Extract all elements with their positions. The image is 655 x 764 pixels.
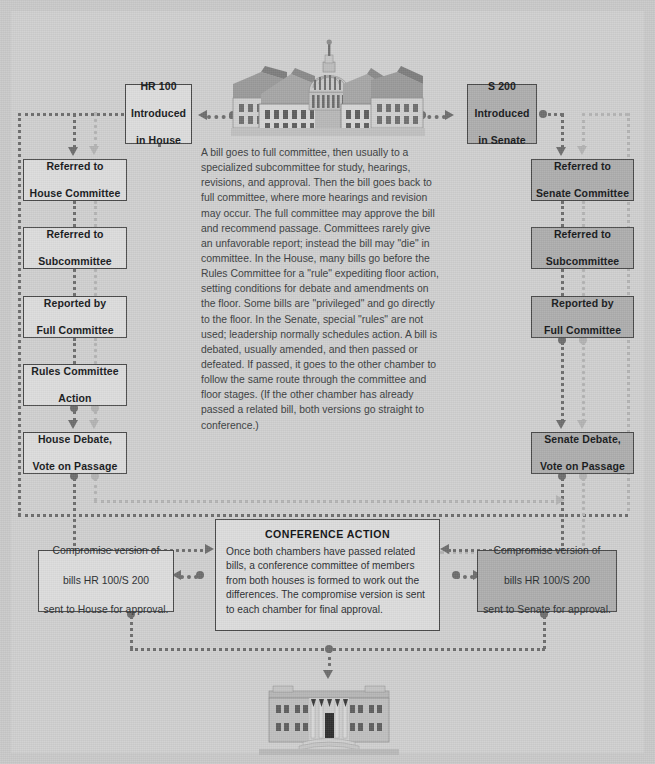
box-compromise-senate[interactable]: Compromise version of bills HR 100/S 200… bbox=[477, 550, 617, 612]
step-line2: Action bbox=[24, 392, 126, 405]
diagram-canvas: HR 100 Introduced in House S 200 Introdu… bbox=[0, 0, 655, 764]
hr100-line1: HR 100 bbox=[126, 80, 191, 93]
box-house-referred-to-subcommittee[interactable]: Referred to Subcommittee bbox=[23, 227, 127, 269]
step-line2: Subcommittee bbox=[24, 255, 126, 268]
compromise-senate-line1: Compromise version of bbox=[478, 544, 616, 559]
step-line2: Full Committee bbox=[532, 324, 633, 337]
connector-house-light-entry bbox=[94, 112, 97, 148]
connector-senate-light-entry bbox=[582, 113, 585, 148]
connector-senate-2-3-dark bbox=[561, 269, 564, 296]
arrow-light-into-senate-committee bbox=[577, 146, 587, 155]
arrow-into-house-committee bbox=[68, 147, 78, 156]
connector-senate-2-3-light bbox=[582, 269, 585, 296]
s200-line2: Introduced bbox=[468, 107, 536, 120]
connector-senate-light-top bbox=[582, 113, 628, 116]
connector-dot bbox=[325, 645, 333, 653]
step-line2: House Committee bbox=[24, 187, 126, 200]
box-referred-to-senate-committee[interactable]: Referred to Senate Committee bbox=[531, 159, 634, 201]
connector-senate-out-light bbox=[582, 478, 585, 552]
compromise-senate-line2: bills HR 100/S 200 bbox=[478, 574, 616, 589]
connector-house-out-dark-drop bbox=[73, 478, 76, 517]
compromise-house-line3: sent to House for approval. bbox=[39, 603, 173, 618]
box-senate-debate-vote-on-passage[interactable]: Senate Debate, Vote on Passage bbox=[531, 432, 634, 474]
connector-senate-3-4-dark bbox=[561, 342, 564, 422]
connector-dot bbox=[452, 571, 460, 579]
step-line1: Reported by bbox=[532, 297, 633, 310]
hr100-line3: in House bbox=[126, 134, 191, 147]
arrow-light-into-senate-debate bbox=[577, 420, 587, 429]
step-line2: Vote on Passage bbox=[24, 460, 126, 473]
connector-house-2-3-dark bbox=[73, 269, 76, 296]
connector-left-return-rail bbox=[18, 113, 21, 516]
capitol-building-illustration bbox=[231, 22, 425, 140]
connector-main-horizontal-bus bbox=[18, 514, 628, 517]
conference-action-panel[interactable]: CONFERENCE ACTION Once both chambers hav… bbox=[215, 519, 440, 631]
arrow-into-white-house bbox=[323, 670, 333, 679]
connector-house-3-4-dark bbox=[73, 338, 76, 364]
arrow-light-into-house-debate bbox=[89, 420, 99, 429]
compromise-house-line2: bills HR 100/S 200 bbox=[39, 574, 173, 589]
connector-senate-1-2-dark bbox=[561, 201, 564, 227]
arrow-capitol-to-s200 bbox=[445, 110, 454, 120]
arrow-light-into-house-committee bbox=[89, 146, 99, 155]
connector-senate-1-2-light bbox=[582, 201, 585, 227]
arrow-into-right-compromise-route bbox=[440, 544, 449, 554]
step-line2: Subcommittee bbox=[532, 255, 633, 268]
arrow-into-left-compromise-route bbox=[205, 544, 214, 554]
step-line2: Senate Committee bbox=[532, 187, 633, 200]
connector-bottom-bus bbox=[130, 648, 545, 651]
connector-house-1-2-light bbox=[94, 201, 97, 227]
arrow-into-senate-committee bbox=[556, 147, 566, 156]
s200-line1: S 200 bbox=[468, 80, 536, 93]
white-house-illustration bbox=[259, 683, 399, 755]
connector-dot bbox=[196, 571, 204, 579]
arrow-light-bus-right bbox=[556, 495, 565, 505]
step-line1: Rules Committee bbox=[24, 365, 126, 378]
connector-house-3-4-light bbox=[94, 338, 97, 364]
compromise-house-line1: Compromise version of bbox=[39, 544, 173, 559]
box-house-debate-vote-on-passage[interactable]: House Debate, Vote on Passage bbox=[23, 432, 127, 474]
box-referred-to-house-committee[interactable]: Referred to House Committee bbox=[23, 159, 127, 201]
compromise-senate-line3: sent to Senate for approval. bbox=[478, 603, 616, 618]
box-s200-introduced[interactable]: S 200 Introduced in Senate bbox=[467, 84, 537, 144]
step-line1: Referred to bbox=[532, 228, 633, 241]
conference-action-body: Once both chambers have passed related b… bbox=[226, 545, 429, 617]
arrow-into-senate-debate bbox=[556, 420, 566, 429]
box-senate-reported-by-full-committee[interactable]: Reported by Full Committee bbox=[531, 296, 634, 338]
connector-senate-3-4-light bbox=[582, 342, 585, 422]
box-rules-committee-action[interactable]: Rules Committee Action bbox=[23, 364, 127, 406]
step-line1: House Debate, bbox=[24, 433, 126, 446]
hr100-line2: Introduced bbox=[126, 107, 191, 120]
box-compromise-house[interactable]: Compromise version of bills HR 100/S 200… bbox=[38, 550, 174, 612]
step-line1: Senate Debate, bbox=[532, 433, 633, 446]
step-line2: Vote on Passage bbox=[532, 460, 633, 473]
connector-senate-compromise-down bbox=[543, 616, 546, 649]
narrative-paragraph: A bill goes to full committee, then usua… bbox=[201, 145, 444, 433]
connector-house-out-light-drop bbox=[94, 478, 97, 501]
step-line1: Reported by bbox=[24, 297, 126, 310]
step-line1: Referred to bbox=[24, 228, 126, 241]
step-line1: Referred to bbox=[24, 160, 126, 173]
arrow-into-house-debate bbox=[68, 420, 78, 429]
connector-senate-dark-entry bbox=[561, 113, 564, 149]
conference-action-title: CONFERENCE ACTION bbox=[226, 528, 429, 540]
arrow-capitol-to-hr100 bbox=[198, 110, 207, 120]
step-line2: Full Committee bbox=[24, 324, 126, 337]
connector-house-2-3-light bbox=[94, 269, 97, 296]
connector-house-compromise-down bbox=[130, 616, 133, 649]
s200-line3: in Senate bbox=[468, 134, 536, 147]
box-hr100-introduced[interactable]: HR 100 Introduced in House bbox=[125, 84, 192, 144]
box-house-reported-by-full-committee[interactable]: Reported by Full Committee bbox=[23, 296, 127, 338]
box-senate-referred-to-subcommittee[interactable]: Referred to Subcommittee bbox=[531, 227, 634, 269]
connector-house-1-2-dark bbox=[73, 201, 76, 227]
connector-house-to-senate-light bbox=[94, 500, 560, 503]
connector-dot bbox=[539, 110, 547, 118]
step-line1: Referred to bbox=[532, 160, 633, 173]
narrative-text: A bill goes to full committee, then usua… bbox=[201, 145, 444, 433]
connector-house-dark-entry bbox=[73, 113, 76, 149]
